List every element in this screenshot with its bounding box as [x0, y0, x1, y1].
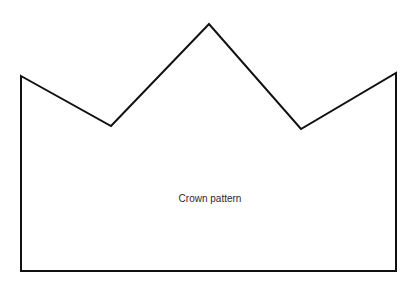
crown-outline	[0, 0, 420, 287]
diagram-label: Crown pattern	[0, 193, 420, 204]
